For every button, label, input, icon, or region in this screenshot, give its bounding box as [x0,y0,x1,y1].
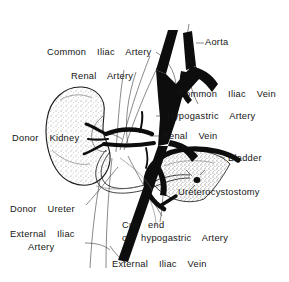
label-external-iliac-artery-line1: External Iliac [10,228,75,241]
label-renal-vein: Renal Vein [162,130,218,143]
label-bladder: Bladder [228,152,262,165]
label-external-iliac-artery-line2: Artery [28,241,54,254]
label-hypogastric-artery: Hypogastric Artery [167,110,255,123]
label-donor-kidney: Donor Kidney [12,132,79,145]
label-aorta: Aorta [205,36,228,49]
label-common-iliac-artery: Common Iliac Artery [47,46,152,59]
label-cut-end-line1: Cut end [122,219,164,232]
label-renal-artery: Renal Artery [71,70,133,83]
label-donor-ureter: Donor Ureter [10,203,75,216]
label-ureterocystostomy: Ureterocystostomy [178,186,260,199]
label-common-iliac-vein: Common Iliac Vein [178,88,276,101]
label-cut-end-line2: of hypogastric Artery [122,232,228,245]
label-external-iliac-vein: External Iliac Vein [112,258,207,271]
figure-canvas: Aorta Common Iliac Artery Renal Artery C… [0,0,289,282]
